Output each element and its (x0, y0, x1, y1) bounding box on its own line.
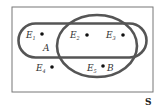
point-dot (121, 33, 125, 37)
point-dot (85, 33, 89, 37)
point-e3: E3 (105, 30, 125, 41)
set-b-label: B (106, 63, 114, 73)
point-e1: E1 (25, 30, 44, 41)
universe-label: S (145, 97, 152, 107)
point-dot (50, 65, 54, 69)
venn-diagram: E1 A E2 E3 E4 E5 B S (0, 0, 161, 110)
set-a-outline (19, 24, 147, 58)
svg-text:E5: E5 (86, 63, 97, 74)
svg-text:E1: E1 (25, 30, 36, 41)
point-e2: E2 (69, 30, 89, 41)
set-a-label: A (42, 43, 50, 53)
svg-text:E2: E2 (69, 30, 80, 41)
point-dot (40, 32, 44, 36)
svg-text:E3: E3 (105, 30, 116, 41)
point-e5: E5 (86, 63, 105, 74)
universe-frame (12, 7, 153, 92)
svg-text:E4: E4 (35, 63, 46, 74)
point-e4: E4 (35, 63, 54, 74)
point-dot (101, 64, 105, 68)
